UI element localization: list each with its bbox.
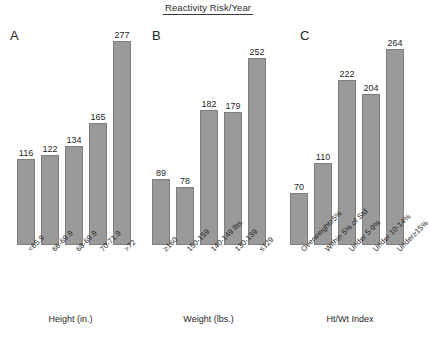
bar-value-label: 179 [225, 101, 240, 111]
bar[interactable] [41, 155, 59, 245]
panel-c-plot-area: 70 110 222 204 264 [280, 30, 416, 245]
bar-group: 70 [290, 30, 308, 245]
bar-value-label: 70 [294, 182, 304, 192]
bar-value-label: 222 [339, 69, 354, 79]
bar-value-label: 116 [19, 148, 33, 158]
bar-value-label: 252 [249, 47, 264, 57]
bar[interactable] [200, 110, 218, 245]
bar-group: 116 [17, 30, 35, 245]
bar-value-label: 204 [363, 83, 378, 93]
panel-a-tick-labels: <65.9 66-69.9 68-69.9 70-71.9 >72 [0, 247, 145, 307]
panel-a-axis-title: Height (in.) [0, 314, 143, 324]
bar-group: 182 [200, 30, 218, 245]
panel-a: A 116 122 134 165 277 [0, 0, 145, 339]
panel-a-plot-area: 116 122 134 165 277 [0, 30, 145, 245]
bar-value-label: 122 [42, 144, 57, 154]
bar-group: 179 [224, 30, 242, 245]
bar[interactable] [113, 41, 131, 245]
bar[interactable] [89, 123, 107, 245]
bar[interactable] [176, 187, 194, 245]
bar-group: 110 [314, 30, 332, 245]
panel-b-axis-title: Weight (lbs.) [141, 314, 276, 324]
bar-value-label: 110 [316, 152, 330, 162]
panel-a-bars: 116 122 134 165 277 [17, 30, 131, 245]
bar-group: 122 [41, 30, 59, 245]
panel-b: B 89 78 182 179 252 ≥1 [145, 0, 280, 339]
bar[interactable] [248, 58, 266, 245]
bar-group: 277 [113, 30, 131, 245]
bar-value-label: 78 [180, 176, 190, 186]
bar-value-label: 182 [201, 99, 216, 109]
panel-c-axis-title: Ht/Wt Index [282, 314, 418, 324]
bar-value-label: 277 [114, 30, 129, 40]
panel-b-tick-labels: ≥160 150-159 140-149 lbs. 130-139 ≤129 [145, 247, 280, 307]
bar-group: 252 [248, 30, 266, 245]
bar[interactable] [290, 193, 308, 245]
bar-group: 134 [65, 30, 83, 245]
panel-c-bars: 70 110 222 204 264 [290, 30, 404, 245]
bar[interactable] [17, 159, 35, 245]
bar-value-label: 134 [66, 135, 81, 145]
bar-value-label: 89 [156, 168, 166, 178]
bar-group: 264 [386, 30, 404, 245]
bar-group: 165 [89, 30, 107, 245]
panel-b-plot-area: 89 78 182 179 252 [145, 30, 280, 245]
panel-b-bars: 89 78 182 179 252 [152, 30, 266, 245]
bar-group: 78 [176, 30, 194, 245]
bar-value-label: 165 [90, 112, 105, 122]
panel-c-tick-labels: Overweight≥5% Within 5% of Std Under 5-9… [280, 247, 416, 307]
bar-value-label: 264 [387, 38, 402, 48]
panel-c: C 70 110 222 204 264 O [280, 0, 416, 339]
bar[interactable] [152, 179, 170, 245]
bar-group: 89 [152, 30, 170, 245]
